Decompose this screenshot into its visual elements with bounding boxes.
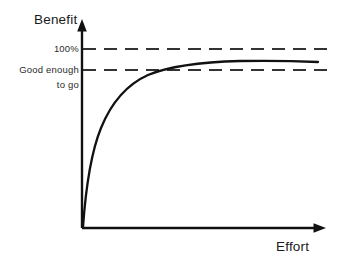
tick-label-good-enough: Good enough to go <box>0 65 79 89</box>
tick-label-good-enough-line2: to go <box>0 80 79 90</box>
chart-canvas <box>0 0 352 264</box>
y-axis-label: Benefit <box>34 13 77 27</box>
benefit-curve <box>83 61 318 227</box>
tick-label-good-enough-line1: Good enough <box>19 64 79 75</box>
tick-label-max-benefit: 100% <box>0 44 79 54</box>
diminishing-returns-chart: Benefit Effort 100% Good enough to go <box>0 0 352 264</box>
x-axis-label: Effort <box>276 240 309 254</box>
x-axis <box>82 223 326 233</box>
